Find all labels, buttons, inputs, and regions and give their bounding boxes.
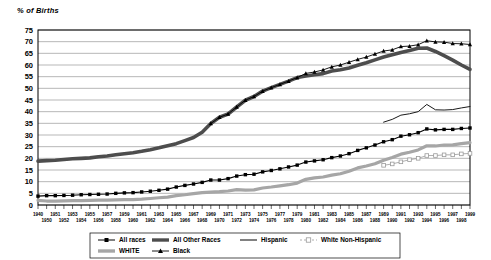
y-tick-label: 25 (25, 142, 33, 151)
x-tick-label: 1964 (162, 218, 173, 223)
data-point (105, 192, 108, 195)
data-point (97, 193, 100, 196)
x-tick-label: 1959 (119, 212, 130, 217)
data-point (114, 192, 117, 195)
x-tick-label: 1990 (387, 218, 398, 223)
data-point (157, 189, 160, 192)
x-tick-label: 1979 (292, 212, 303, 217)
data-point (434, 128, 437, 131)
x-tick-label: 1956 (93, 218, 104, 223)
data-point (321, 158, 324, 161)
data-point (244, 173, 247, 176)
series-line-white (38, 143, 470, 201)
x-tick-label: 1952 (59, 218, 70, 223)
data-point (442, 128, 445, 131)
legend-label: WHITE (119, 247, 140, 254)
x-tick-label: 1958 (111, 218, 122, 223)
data-point (460, 127, 463, 130)
x-tick-label: 1951 (50, 212, 61, 217)
data-point (382, 164, 386, 168)
series-line-all-races (38, 128, 470, 196)
data-point (62, 194, 65, 197)
x-tick-label: 1961 (137, 212, 148, 217)
y-tick-label: 20 (25, 154, 33, 163)
data-point (218, 178, 221, 181)
legend-label: White Non-Hispanic (321, 236, 382, 244)
y-tick-label: 45 (25, 96, 33, 105)
x-tick-label: 1962 (145, 218, 156, 223)
data-point (382, 140, 385, 143)
data-point (416, 157, 420, 161)
data-point (149, 190, 152, 193)
data-point (226, 177, 229, 180)
line-chart-plot: 0510152025303540455055606570751940195019… (0, 0, 491, 260)
x-tick-label: 1989 (378, 212, 389, 217)
x-tick-label: 1957 (102, 212, 113, 217)
x-tick-label: 1976 (266, 218, 277, 223)
data-point (356, 149, 359, 152)
x-tick-label: 1973 (240, 212, 251, 217)
x-tick-label: 1954 (76, 218, 87, 223)
data-point (209, 178, 212, 181)
data-point (175, 185, 178, 188)
x-tick-label: 1993 (413, 212, 424, 217)
data-point (390, 162, 394, 166)
data-point (347, 152, 350, 155)
data-point (425, 154, 429, 158)
data-point (80, 193, 83, 196)
legend-label: All races (119, 236, 146, 243)
x-tick-label: 1967 (188, 212, 199, 217)
data-point (451, 153, 455, 157)
data-point (365, 146, 368, 149)
data-point (408, 133, 411, 136)
x-tick-label: 1992 (404, 218, 415, 223)
x-tick-label: 1968 (197, 218, 208, 223)
legend-label: All Other Races (173, 236, 221, 243)
data-point (460, 152, 464, 156)
y-tick-label: 50 (25, 84, 33, 93)
y-tick-label: 15 (25, 166, 33, 175)
data-point (131, 191, 134, 194)
x-tick-label: 1965 (171, 212, 182, 217)
x-tick-label: 1996 (439, 218, 450, 223)
plot-frame (38, 30, 470, 205)
data-point (296, 163, 299, 166)
x-tick-label: 1995 (430, 212, 441, 217)
chart-container: % of Births 0510152025303540455055606570… (0, 0, 491, 260)
x-tick-label: 1988 (370, 218, 381, 223)
data-point (287, 165, 290, 168)
data-point (408, 158, 412, 162)
x-tick-label: 1975 (258, 212, 269, 217)
y-tick-label: 55 (25, 72, 33, 81)
y-tick-label: 5 (29, 189, 33, 198)
x-tick-label: 1963 (154, 212, 165, 217)
legend-marker-open-square (306, 238, 310, 242)
data-point (252, 173, 255, 176)
y-tick-label: 75 (25, 26, 33, 35)
data-point (451, 128, 454, 131)
x-tick-label: 1997 (448, 212, 459, 217)
x-tick-label: 1984 (335, 218, 346, 223)
y-tick-label: 40 (25, 107, 33, 116)
x-tick-label: 1981 (309, 212, 320, 217)
x-tick-label: 1970 (214, 218, 225, 223)
x-tick-label: 1987 (361, 212, 372, 217)
y-tick-label: 30 (25, 131, 33, 140)
x-tick-label: 1999 (465, 212, 476, 217)
data-point (330, 156, 333, 159)
data-point (200, 181, 203, 184)
x-tick-label: 1969 (206, 212, 217, 217)
y-tick-label: 70 (25, 37, 33, 46)
y-tick-label: 10 (25, 177, 33, 186)
x-tick-label: 1960 (128, 218, 139, 223)
x-tick-label: 1966 (180, 218, 191, 223)
data-point (434, 154, 438, 158)
y-tick-label: 35 (25, 119, 33, 128)
data-point (278, 167, 281, 170)
data-point (399, 160, 403, 164)
x-tick-label: 1950 (42, 218, 53, 223)
data-point (442, 153, 446, 157)
data-point (36, 194, 39, 197)
data-point (71, 194, 74, 197)
data-point (123, 191, 126, 194)
